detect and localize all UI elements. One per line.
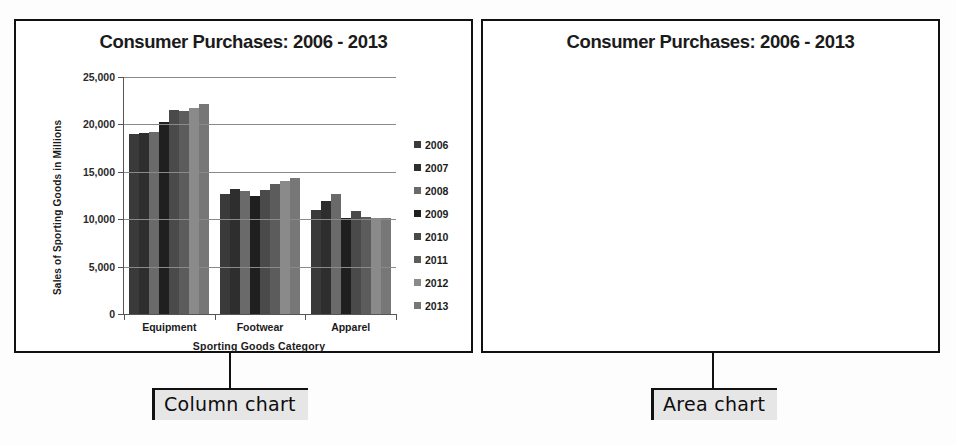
bar-footwear-2013[interactable] xyxy=(290,178,300,315)
column-chart-gridline xyxy=(124,172,396,173)
column-chart-y-tick xyxy=(118,267,124,268)
bar-footwear-2012[interactable] xyxy=(280,181,290,314)
column-chart-panel: Consumer Purchases: 2006 - 2013 Sales of… xyxy=(14,19,473,353)
page-root: Consumer Purchases: 2006 - 2013 Sales of… xyxy=(0,0,956,445)
bar-apparel-2008[interactable] xyxy=(331,194,341,314)
column-chart-y-tick-label: 10,000 xyxy=(83,213,115,225)
bar-footwear-2006[interactable] xyxy=(220,194,230,314)
legend-item-2010[interactable]: 2010 xyxy=(414,225,472,248)
column-chart-gridline xyxy=(124,77,396,78)
column-chart-y-tick-label: 15,000 xyxy=(83,166,115,178)
bar-footwear-2011[interactable] xyxy=(270,184,280,314)
bar-apparel-2006[interactable] xyxy=(311,210,321,314)
bar-group-footwear: Footwear xyxy=(215,77,306,314)
column-chart-y-tick xyxy=(118,124,124,125)
legend-swatch-icon xyxy=(414,279,421,286)
column-chart-x-tick xyxy=(124,314,125,320)
legend-item-2007[interactable]: 2007 xyxy=(414,156,472,179)
bar-equipment-2007[interactable] xyxy=(139,133,149,314)
bar-group-apparel: Apparel xyxy=(305,77,396,314)
column-chart-y-axis-title: Sales of Sporting Goods in Millions xyxy=(52,105,63,295)
column-chart-gridline xyxy=(124,219,396,220)
bar-equipment-2012[interactable] xyxy=(189,108,199,314)
column-chart-bar-groups: EquipmentFootwearApparel xyxy=(124,77,396,314)
area-chart-title: Consumer Purchases: 2006 - 2013 xyxy=(483,31,938,53)
legend-item-2012[interactable]: 2012 xyxy=(414,271,472,294)
column-chart-x-tick xyxy=(396,314,397,320)
legend-label: 2008 xyxy=(425,185,448,197)
legend-swatch-icon xyxy=(414,164,421,171)
legend-label: 2006 xyxy=(425,139,448,151)
bar-equipment-2006[interactable] xyxy=(129,134,139,314)
legend-swatch-icon xyxy=(414,233,421,240)
column-chart-title: Consumer Purchases: 2006 - 2013 xyxy=(16,31,471,53)
column-chart-y-tick xyxy=(118,172,124,173)
legend-label: 2007 xyxy=(425,162,448,174)
column-chart-y-tick-label: 25,000 xyxy=(83,71,115,83)
bar-equipment-2009[interactable] xyxy=(159,122,169,314)
legend-swatch-icon xyxy=(414,256,421,263)
bar-group-equipment: Equipment xyxy=(124,77,215,314)
bar-equipment-2011[interactable] xyxy=(179,111,189,314)
legend-item-2006[interactable]: 2006 xyxy=(414,133,472,156)
area-chart-callout-connector xyxy=(712,353,714,389)
category-label-equipment: Equipment xyxy=(124,321,215,333)
column-chart-plot-area: EquipmentFootwearApparel 25,00020,00015,… xyxy=(123,77,396,315)
column-chart-legend: 20062007200820092010201120122013 xyxy=(414,133,472,317)
column-chart-callout-label: Column chart xyxy=(152,388,308,420)
legend-item-2011[interactable]: 2011 xyxy=(414,248,472,271)
legend-label: 2012 xyxy=(425,277,448,289)
bar-footwear-2008[interactable] xyxy=(240,191,250,314)
legend-item-2009[interactable]: 2009 xyxy=(414,202,472,225)
legend-label: 2013 xyxy=(425,300,448,312)
legend-swatch-icon xyxy=(414,187,421,194)
legend-swatch-icon xyxy=(414,141,421,148)
column-chart-y-tick-label: 20,000 xyxy=(83,118,115,130)
category-label-footwear: Footwear xyxy=(215,321,306,333)
bar-equipment-2008[interactable] xyxy=(149,132,159,314)
bar-footwear-2010[interactable] xyxy=(260,190,270,314)
legend-swatch-icon xyxy=(414,210,421,217)
bar-equipment-2010[interactable] xyxy=(169,110,179,314)
bar-apparel-2007[interactable] xyxy=(321,201,331,314)
legend-swatch-icon xyxy=(414,302,421,309)
bar-apparel-2010[interactable] xyxy=(351,211,361,314)
category-label-apparel: Apparel xyxy=(305,321,396,333)
column-chart-y-tick-label: 5,000 xyxy=(89,261,115,273)
bar-equipment-2013[interactable] xyxy=(199,104,209,314)
column-chart-gridline xyxy=(124,124,396,125)
legend-label: 2010 xyxy=(425,231,448,243)
column-chart-x-tick xyxy=(215,314,216,320)
column-chart-x-axis-title: Sporting Goods Category xyxy=(123,340,395,352)
legend-label: 2011 xyxy=(425,254,448,266)
column-chart-gridline xyxy=(124,267,396,268)
legend-item-2013[interactable]: 2013 xyxy=(414,294,472,317)
column-chart-y-tick xyxy=(118,77,124,78)
area-chart-panel: Consumer Purchases: 2006 - 2013 Sales of… xyxy=(481,19,940,353)
column-chart-y-tick xyxy=(118,219,124,220)
area-chart-callout-label: Area chart xyxy=(651,388,777,420)
column-chart-y-tick-label: 0 xyxy=(109,308,115,320)
column-chart-callout-connector xyxy=(229,353,231,389)
legend-label: 2009 xyxy=(425,208,448,220)
bar-footwear-2009[interactable] xyxy=(250,196,260,314)
legend-item-2008[interactable]: 2008 xyxy=(414,179,472,202)
column-chart-x-tick xyxy=(305,314,306,320)
bar-footwear-2007[interactable] xyxy=(230,189,240,314)
